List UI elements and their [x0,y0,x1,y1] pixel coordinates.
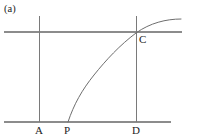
point-label-d: D [132,125,140,136]
panel-tag: (a) [4,3,16,14]
point-label-c: C [139,34,146,45]
point-label-a: A [35,125,43,136]
figure-panel-a: (a) A P D C [0,0,218,139]
point-label-p: P [64,125,70,136]
figure-canvas [0,0,218,139]
concave-increasing-curve [68,19,181,122]
